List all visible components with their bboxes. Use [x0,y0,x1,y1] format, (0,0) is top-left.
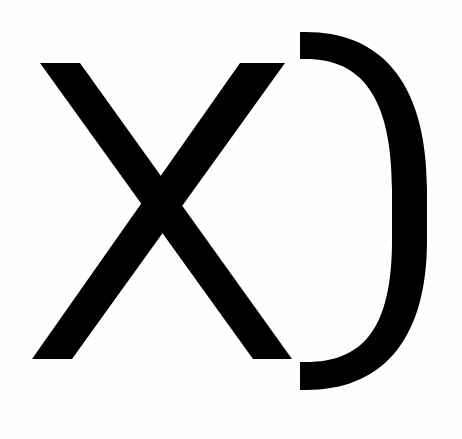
emoticon-canvas: XD [0,0,462,439]
letter-x-icon [32,63,292,359]
letter-d-icon [300,32,427,390]
d-arc [300,32,427,390]
xd-emoticon-graphic [0,0,462,439]
